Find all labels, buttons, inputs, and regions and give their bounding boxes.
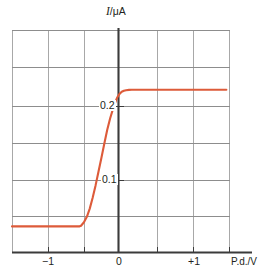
x-tick-label-minus1: −1: [35, 255, 61, 267]
x-tick-label-plus1: +1: [181, 255, 207, 267]
horizontal-gridlines: [12, 31, 230, 217]
vertical-gridlines: [13, 30, 230, 252]
x-axis-title: P.d./V: [231, 256, 257, 267]
plot-canvas: [0, 0, 264, 278]
y-axis-title: I/μA: [106, 5, 126, 17]
x-tick-label-zero: 0: [106, 255, 132, 267]
graph-figure: I/μA P.d./V −1 0 +1 0.2 0.1: [0, 0, 264, 278]
y-axis-title-units: /μA: [110, 5, 126, 17]
y-tick-label-0-2: 0.2: [99, 100, 116, 111]
x-axis-tick-marks: [49, 247, 230, 252]
y-tick-label-0-1: 0.1: [101, 174, 118, 185]
